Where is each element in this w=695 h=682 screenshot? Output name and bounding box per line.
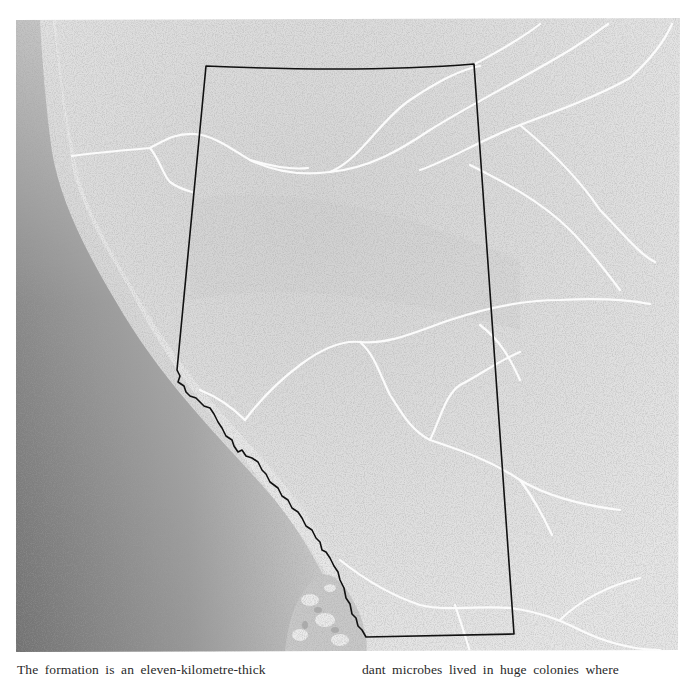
- book-page: The formation is an eleven-kilometre-thi…: [0, 0, 695, 682]
- caption: The formation is an eleven-kilometre-thi…: [0, 658, 695, 680]
- caption-column-right: dant microbes lived in huge colonies whe…: [362, 662, 619, 678]
- caption-column-left: The formation is an eleven-kilometre-thi…: [17, 662, 266, 678]
- relief-map: [0, 0, 695, 655]
